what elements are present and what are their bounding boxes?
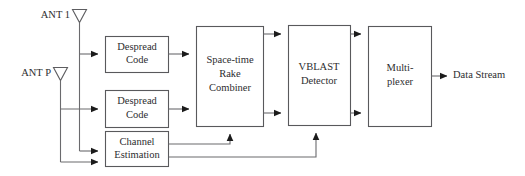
- block-despread-code-2-line1: Despread: [117, 95, 157, 106]
- wire-channel-estimation-to-vblast: [169, 133, 317, 157]
- block-channel-estimation-line1: Channel: [120, 136, 155, 147]
- block-despread-code-1-line1: Despread: [117, 41, 157, 52]
- antenna-p: ANT P: [21, 67, 67, 162]
- block-multiplexer[interactable]: Multi- plexer: [369, 27, 432, 127]
- block-despread-code-2[interactable]: Despread Code: [106, 91, 169, 128]
- block-vblast-detector[interactable]: VBLAST Detector: [289, 26, 351, 126]
- data-stream-label: Data Stream: [453, 69, 505, 80]
- block-channel-estimation[interactable]: Channel Estimation: [106, 132, 169, 167]
- wire-channel-estimation-to-rake: [169, 134, 231, 144]
- antenna-1-label: ANT 1: [41, 9, 70, 20]
- block-multiplexer-line2: plexer: [387, 76, 414, 87]
- diagram-canvas: ANT 1 ANT P Despread Code Despread C: [0, 0, 525, 176]
- block-space-time-rake-combiner-line1: Space-time: [206, 54, 254, 65]
- block-despread-code-1[interactable]: Despread Code: [106, 37, 169, 73]
- block-space-time-rake-combiner[interactable]: Space-time Rake Combiner: [197, 27, 264, 127]
- block-vblast-detector-line2: Detector: [301, 75, 338, 86]
- block-despread-code-1-line2: Code: [126, 54, 149, 65]
- antenna-p-label: ANT P: [21, 67, 51, 78]
- block-vblast-detector-line1: VBLAST: [299, 61, 340, 72]
- block-space-time-rake-combiner-line3: Combiner: [209, 82, 251, 93]
- block-multiplexer-line1: Multi-: [387, 62, 414, 73]
- block-space-time-rake-combiner-line2: Rake: [219, 68, 241, 79]
- antenna-p-icon: [54, 68, 68, 81]
- block-channel-estimation-line2: Estimation: [114, 149, 160, 160]
- block-despread-code-2-line2: Code: [126, 109, 149, 120]
- antenna-1: ANT 1: [41, 9, 87, 151]
- block-diagram: ANT 1 ANT P Despread Code Despread C: [0, 0, 525, 176]
- antenna-1-icon: [73, 10, 87, 23]
